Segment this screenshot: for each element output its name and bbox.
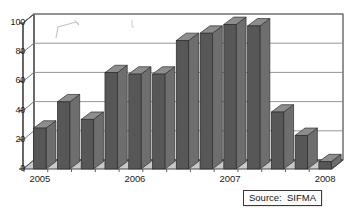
bar-front-face bbox=[248, 26, 260, 169]
y-axis-labels: 020406080100 bbox=[0, 0, 25, 218]
bar bbox=[271, 105, 293, 169]
bar-front-face bbox=[176, 41, 188, 169]
x-axis-tick-label: 2007 bbox=[220, 174, 241, 184]
bar-side-face bbox=[165, 67, 175, 169]
bar-side-face bbox=[189, 33, 199, 169]
bar-front-face bbox=[153, 74, 165, 169]
bar-side-face bbox=[284, 105, 294, 169]
bar-side-face bbox=[260, 19, 270, 169]
bar-front-face bbox=[319, 162, 331, 169]
bar bbox=[295, 128, 317, 169]
bar-front-face bbox=[57, 102, 69, 169]
bar-front-face bbox=[129, 74, 141, 169]
x-axis-tick-label: 2006 bbox=[125, 174, 146, 184]
x-axis-tick-label: 2005 bbox=[29, 174, 50, 184]
bar bbox=[34, 121, 56, 169]
bar-side-face bbox=[141, 67, 151, 169]
bar bbox=[129, 67, 151, 169]
y-axis-tick-label: 80 bbox=[1, 47, 25, 56]
bar bbox=[105, 65, 127, 169]
bar-side-face bbox=[236, 17, 246, 169]
bar-chart-plot bbox=[0, 0, 353, 218]
bar-side-face bbox=[117, 65, 127, 169]
bar-front-face bbox=[224, 24, 236, 169]
y-axis-tick-label: 20 bbox=[1, 135, 25, 144]
bar bbox=[153, 67, 175, 169]
y-axis-tick-label: 0 bbox=[1, 164, 25, 173]
x-axis-tick-label: 2008 bbox=[315, 174, 336, 184]
y-axis-tick-label: 40 bbox=[1, 106, 25, 115]
bar-front-face bbox=[200, 33, 212, 169]
bar-front-face bbox=[271, 112, 283, 169]
bar bbox=[224, 17, 246, 169]
bar-front-face bbox=[295, 135, 307, 169]
bar bbox=[176, 33, 198, 169]
bar-side-face bbox=[46, 121, 56, 169]
bar bbox=[248, 19, 270, 169]
bar-side-face bbox=[70, 94, 80, 169]
y-axis-tick-label: 60 bbox=[1, 76, 25, 85]
bar bbox=[200, 26, 222, 169]
bar bbox=[57, 94, 79, 169]
bar-front-face bbox=[81, 119, 93, 169]
chart-container: 020406080100 2005200620072008 Source: SI… bbox=[0, 0, 353, 218]
bar-front-face bbox=[34, 128, 46, 169]
bar bbox=[81, 112, 103, 169]
source-label: Source: SIFMA bbox=[243, 190, 322, 206]
bar-front-face bbox=[105, 73, 117, 169]
bar-side-face bbox=[94, 112, 104, 169]
bar-side-face bbox=[212, 26, 222, 169]
y-axis-tick-label: 100 bbox=[1, 18, 25, 27]
